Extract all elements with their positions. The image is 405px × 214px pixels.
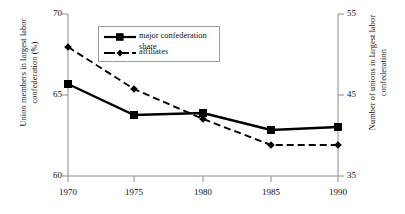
legend-swatch-affiliates: [103, 48, 137, 58]
legend-label-affiliates: affiliates: [139, 48, 168, 57]
chart-container: Union members in largest labor confedera…: [0, 0, 405, 214]
legend-label-major-confederation: major confederation: [139, 32, 207, 41]
legend-swatch-major-confederation-share: [103, 32, 137, 42]
series-major-confederation-share-markers: [64, 80, 342, 134]
series-major-confederation-share-line: [68, 84, 338, 130]
chart-legend: major confederation share affiliates: [98, 26, 220, 62]
